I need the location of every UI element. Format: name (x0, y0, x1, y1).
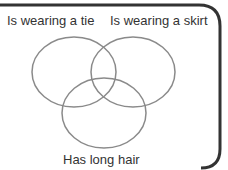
set-circle-skirt (91, 37, 175, 107)
frame-border (0, 5, 220, 168)
set-label-long-hair: Has long hair (63, 152, 140, 167)
set-label-tie: Is wearing a tie (7, 13, 94, 28)
set-label-skirt: Is wearing a skirt (110, 13, 208, 28)
set-circle-long-hair (62, 78, 146, 148)
